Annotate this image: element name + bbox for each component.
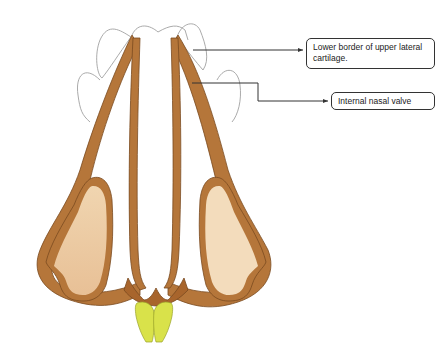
columella-bridge <box>124 278 188 306</box>
right-medial-strut <box>164 38 181 288</box>
cartilage-framework <box>37 35 271 307</box>
columella-footplates <box>135 302 172 342</box>
leader-internal-nasal-valve <box>192 83 328 101</box>
label-internal-nasal-valve: Internal nasal valve <box>331 92 435 110</box>
nasal-anatomy-diagram: Lower border of upper lateral cartilage.… <box>0 0 444 353</box>
left-footplate <box>135 302 154 342</box>
right-footplate <box>154 302 173 342</box>
left-medial-strut <box>129 38 146 290</box>
label-upper-lateral-cartilage: Lower border of upper lateral cartilage. <box>306 38 435 69</box>
